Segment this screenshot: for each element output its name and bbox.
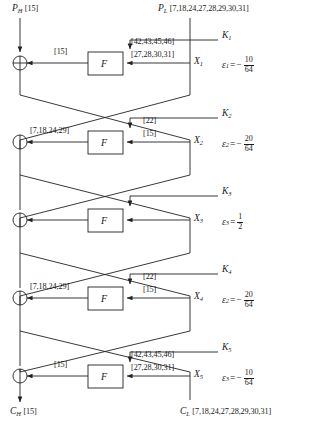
f-box-label-r3: F [101, 215, 107, 226]
round-x-label-r2: X2 [194, 136, 203, 146]
f-box-label-r5: F [101, 371, 107, 382]
f-box-label-r2: F [101, 137, 107, 148]
output-mask-label-r5: [15] [54, 361, 67, 369]
input-mask-bottom-label-r5: [27,28,30,31] [131, 364, 174, 372]
round-x-label-r3: X3 [194, 214, 203, 224]
f-box-label-r4: F [101, 293, 107, 304]
bias-label-r1: ε1=− 1064 [222, 56, 254, 74]
input-mask-top-label-r2: [22] [143, 117, 156, 125]
output-mask-label-r2: [7,18,24,29] [30, 127, 69, 135]
f-box-label-r1: F [101, 58, 107, 69]
output-mask-label-r1: [15] [54, 48, 67, 56]
input-mask-bottom-label-r1: [27,28,30,31] [131, 51, 174, 59]
round-key-label-r1: K1 [222, 31, 232, 41]
round-key-label-r4: K4 [222, 265, 232, 275]
ciphertext-high-label: CH [15] [10, 407, 37, 417]
round-key-label-r5: K5 [222, 343, 232, 353]
round-x-label-r1: X1 [194, 57, 203, 67]
input-mask-top-label-r4: [22] [143, 273, 156, 281]
input-mask-bottom-label-r4: [15] [143, 286, 156, 294]
input-mask-top-label-r5: [42,43,45,46] [131, 351, 174, 359]
feistel-linear-cryptanalysis-figure: PH [15] PL [7,18,24,27,28,29,30,31] F K1… [0, 0, 321, 430]
bias-label-r3: ε3= 12 [222, 213, 243, 231]
bias-label-r4: ε2=− 2064 [222, 291, 254, 309]
plaintext-high-label: PH [15] [12, 4, 38, 14]
round-x-label-r4: X4 [194, 292, 203, 302]
output-mask-label-r4: [7,18,24,29] [30, 283, 69, 291]
bias-label-r2: ε2=− 2064 [222, 135, 254, 153]
wire-group [13, 18, 218, 402]
input-mask-bottom-label-r2: [15] [143, 130, 156, 138]
round-key-label-r3: K3 [222, 187, 232, 197]
round-key-label-r2: K2 [222, 109, 232, 119]
ciphertext-low-label: CL [7,18,24,27,28,29,30,31] [180, 407, 271, 417]
round-x-label-r5: X5 [194, 370, 203, 380]
plaintext-low-label: PL [7,18,24,27,28,29,30,31] [158, 4, 249, 14]
input-mask-top-label-r1: [42,43,45,46] [131, 38, 174, 46]
bias-label-r5: ε3=− 1064 [222, 369, 254, 387]
